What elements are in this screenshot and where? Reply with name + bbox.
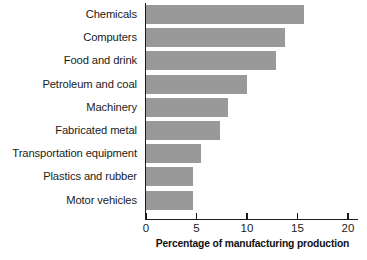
bar bbox=[146, 75, 247, 94]
y-axis-line bbox=[145, 3, 146, 215]
category-label: Chemicals bbox=[0, 5, 141, 24]
bar bbox=[146, 98, 228, 117]
x-tick-label: 15 bbox=[282, 222, 312, 234]
x-axis-title: Percentage of manufacturing production bbox=[146, 238, 359, 249]
category-label: Plastics and rubber bbox=[0, 167, 141, 186]
plot-area bbox=[146, 5, 358, 214]
category-label: Machinery bbox=[0, 98, 141, 117]
x-tick-mark bbox=[297, 213, 298, 219]
bar bbox=[146, 144, 201, 163]
x-tick-label: 20 bbox=[333, 222, 363, 234]
category-label: Motor vehicles bbox=[0, 191, 141, 210]
category-label: Transportation equipment bbox=[0, 144, 141, 163]
x-tick-label: 0 bbox=[131, 222, 161, 234]
category-label: Computers bbox=[0, 28, 141, 47]
x-tick-mark bbox=[246, 213, 247, 219]
bar-chart: ChemicalsComputersFood and drinkPetroleu… bbox=[0, 0, 367, 260]
x-tick-mark bbox=[347, 213, 348, 219]
x-tick-label: 5 bbox=[181, 222, 211, 234]
x-axis-line bbox=[145, 219, 358, 220]
bar bbox=[146, 191, 193, 210]
category-axis-labels: ChemicalsComputersFood and drinkPetroleu… bbox=[0, 5, 141, 214]
category-label: Petroleum and coal bbox=[0, 75, 141, 94]
x-tick-mark bbox=[145, 213, 146, 219]
x-tick-label: 10 bbox=[232, 222, 262, 234]
bar bbox=[146, 121, 220, 140]
x-tick-mark bbox=[196, 213, 197, 219]
bar bbox=[146, 167, 193, 186]
category-label: Fabricated metal bbox=[0, 121, 141, 140]
bar bbox=[146, 28, 285, 47]
bar bbox=[146, 5, 304, 24]
category-label: Food and drink bbox=[0, 51, 141, 70]
bar bbox=[146, 51, 276, 70]
